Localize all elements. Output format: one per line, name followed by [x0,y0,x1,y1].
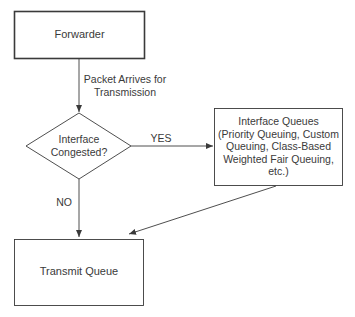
edge-label-line-1: Packet Arrives for [80,73,170,86]
transmit-queue-label: Transmit Queue [14,265,144,278]
queues-line-3: Queuing, Class-Based [214,140,343,153]
no-label: NO [52,196,76,209]
edge-label-packet-arrives: Packet Arrives for Transmission [80,73,170,98]
queues-line-4: Weighted Fair Queuing, [214,153,343,166]
queues-line-5: etc.) [214,165,343,178]
queues-line-1: Interface Queues [214,115,343,128]
queues-line-2: (Priority Queuing, Custom [214,128,343,141]
arrow-queues-to-transmit [129,186,276,234]
interface-queues-label: Interface Queues (Priority Queuing, Cust… [214,115,343,178]
forwarder-label: Forwarder [14,28,145,41]
yes-label: YES [146,132,176,145]
decision-label-line-1: Interface [34,133,124,146]
decision-label: Interface Congested? [34,133,124,158]
edge-label-line-2: Transmission [80,86,170,99]
decision-label-line-2: Congested? [34,146,124,159]
